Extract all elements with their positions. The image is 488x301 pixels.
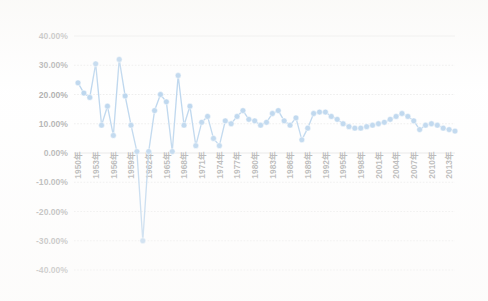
- data-point-marker[interactable]: [346, 124, 352, 130]
- data-point-marker[interactable]: [376, 121, 382, 127]
- data-point-marker[interactable]: [411, 118, 417, 124]
- x-axis-tick-label: 1953年: [91, 151, 101, 179]
- x-axis-tick-label: 1959年: [126, 151, 136, 179]
- y-axis-tick-label: -30.00%: [36, 236, 68, 246]
- data-point-marker[interactable]: [134, 149, 140, 155]
- data-point-marker[interactable]: [187, 103, 193, 109]
- data-point-marker[interactable]: [446, 127, 452, 133]
- data-point-marker[interactable]: [434, 122, 440, 128]
- data-point-marker[interactable]: [334, 116, 340, 122]
- data-point-marker[interactable]: [311, 111, 317, 117]
- x-axis-tick-label: 1986年: [285, 151, 295, 179]
- x-axis-tick-label: 2010年: [427, 151, 437, 179]
- data-point-marker[interactable]: [169, 149, 175, 155]
- data-point-marker[interactable]: [364, 124, 370, 130]
- x-axis-tick-label: 2007年: [409, 151, 419, 179]
- x-axis-tick-label: 1989年: [303, 151, 313, 179]
- x-axis-tick-label: 1968年: [179, 151, 189, 179]
- data-point-marker[interactable]: [234, 114, 240, 120]
- data-point-marker[interactable]: [116, 57, 122, 63]
- data-point-marker[interactable]: [199, 119, 205, 125]
- data-point-marker[interactable]: [122, 93, 128, 99]
- data-point-marker[interactable]: [252, 118, 258, 124]
- x-axis-tick-label: 1998年: [356, 151, 366, 179]
- data-point-marker[interactable]: [128, 122, 134, 128]
- y-axis-tick-label: 40.00%: [39, 31, 69, 41]
- data-point-marker[interactable]: [105, 103, 111, 109]
- data-point-marker[interactable]: [75, 80, 81, 86]
- data-point-marker[interactable]: [110, 133, 116, 139]
- data-point-marker[interactable]: [381, 119, 387, 125]
- data-point-marker[interactable]: [299, 137, 305, 143]
- data-point-marker[interactable]: [211, 135, 217, 141]
- x-axis-tick-label: 2001年: [374, 151, 384, 179]
- data-point-marker[interactable]: [393, 114, 399, 120]
- data-point-marker[interactable]: [423, 122, 429, 128]
- data-point-marker[interactable]: [440, 125, 446, 131]
- data-point-marker[interactable]: [93, 61, 99, 67]
- data-point-marker[interactable]: [293, 115, 299, 121]
- data-point-marker[interactable]: [387, 116, 393, 122]
- y-axis-tick-label: 20.00%: [39, 90, 69, 100]
- data-point-marker[interactable]: [370, 122, 376, 128]
- y-axis-tick-label: 10.00%: [39, 119, 69, 129]
- data-point-marker[interactable]: [287, 122, 293, 128]
- data-point-marker[interactable]: [181, 122, 187, 128]
- y-axis-tick-label: 0.00%: [44, 148, 69, 158]
- data-point-marker[interactable]: [358, 125, 364, 131]
- data-point-marker[interactable]: [87, 95, 93, 101]
- x-axis-tick-label: 1992年: [321, 151, 331, 179]
- data-point-marker[interactable]: [281, 118, 287, 124]
- data-point-marker[interactable]: [152, 108, 158, 114]
- data-point-marker[interactable]: [158, 92, 164, 98]
- x-axis-tick-label: 1971年: [197, 151, 207, 179]
- data-point-marker[interactable]: [328, 114, 334, 120]
- y-axis-tick-label: -10.00%: [36, 177, 68, 187]
- data-point-marker[interactable]: [175, 73, 181, 79]
- chart-container: 40.00%30.00%20.00%10.00%0.00%-10.00%-20.…: [0, 0, 488, 301]
- x-axis-tick-label: 1974年: [215, 151, 225, 179]
- data-point-marker[interactable]: [405, 114, 411, 120]
- data-point-marker[interactable]: [323, 109, 329, 115]
- data-point-marker[interactable]: [258, 122, 264, 128]
- data-point-marker[interactable]: [452, 128, 458, 134]
- y-axis-tick-label: -20.00%: [36, 207, 68, 217]
- data-point-marker[interactable]: [269, 111, 275, 117]
- data-point-marker[interactable]: [193, 143, 199, 149]
- data-point-marker[interactable]: [264, 119, 270, 125]
- data-point-marker[interactable]: [352, 125, 358, 131]
- data-point-marker[interactable]: [163, 99, 169, 105]
- x-axis-tick-label: 1983年: [268, 151, 278, 179]
- data-point-marker[interactable]: [146, 149, 152, 155]
- data-point-marker[interactable]: [222, 118, 228, 124]
- x-axis-tick-label: 2004年: [391, 151, 401, 179]
- data-point-marker[interactable]: [417, 127, 423, 133]
- data-point-marker[interactable]: [81, 90, 87, 96]
- data-point-marker[interactable]: [429, 121, 435, 127]
- x-axis-tick-label: 1980年: [250, 151, 260, 179]
- chart-background: [0, 0, 488, 301]
- data-point-marker[interactable]: [275, 108, 281, 114]
- data-point-marker[interactable]: [99, 122, 105, 128]
- data-point-marker[interactable]: [240, 108, 246, 114]
- data-point-marker[interactable]: [317, 109, 323, 115]
- data-point-marker[interactable]: [246, 116, 252, 122]
- data-point-marker[interactable]: [305, 125, 311, 131]
- line-chart: 40.00%30.00%20.00%10.00%0.00%-10.00%-20.…: [0, 0, 488, 301]
- data-point-marker[interactable]: [140, 238, 146, 244]
- data-point-marker[interactable]: [205, 114, 211, 120]
- data-point-marker[interactable]: [399, 111, 405, 117]
- data-point-marker[interactable]: [216, 143, 222, 149]
- x-axis-tick-label: 1950年: [73, 151, 83, 179]
- data-point-marker[interactable]: [340, 121, 346, 127]
- y-axis-tick-label: 30.00%: [39, 60, 69, 70]
- x-axis-tick-label: 1977年: [232, 151, 242, 179]
- x-axis-tick-label: 1995年: [338, 151, 348, 179]
- x-axis-tick-label: 1956年: [109, 151, 119, 179]
- data-point-marker[interactable]: [228, 121, 234, 127]
- y-axis-tick-label: -40.00%: [36, 265, 68, 275]
- x-axis-tick-label: 1965年: [162, 151, 172, 179]
- x-axis-tick-label: 2013年: [444, 151, 454, 179]
